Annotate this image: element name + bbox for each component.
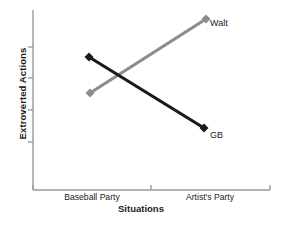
- x-tick-label-artists-party: Artist's Party: [151, 192, 269, 202]
- y-axis-ticks: [28, 47, 33, 142]
- series-walt: [86, 15, 211, 98]
- x-axis-ticks: [33, 185, 270, 190]
- series-label-gb: GB: [210, 130, 223, 140]
- series-gb-line: [89, 57, 204, 128]
- y-axis-title: Extroverted Actions: [17, 34, 28, 154]
- series-gb: [85, 53, 209, 133]
- line-chart: Extroverted Actions Situations Baseball …: [0, 0, 282, 227]
- series-label-walt: Walt: [210, 18, 228, 28]
- x-tick-label-baseball-party: Baseball Party: [33, 192, 151, 202]
- x-axis-title: Situations: [0, 203, 282, 214]
- series-walt-line: [90, 19, 206, 93]
